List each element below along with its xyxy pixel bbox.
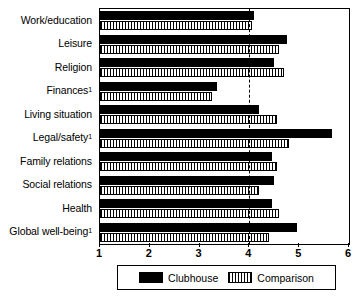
bar-clubhouse — [100, 129, 332, 138]
category-label: Global well-being1 — [0, 220, 96, 244]
category-label: Legal/safety1 — [0, 126, 96, 150]
bar-comparison — [100, 233, 269, 242]
category-label-text: Family relations — [20, 156, 92, 167]
bar-comparison — [100, 186, 259, 195]
x-tick-label: 3 — [196, 246, 202, 260]
x-tick-label: 5 — [295, 246, 301, 260]
category-label: Religion — [0, 55, 96, 79]
bar-group — [100, 80, 349, 104]
bar-group — [100, 9, 349, 33]
reference-line — [249, 9, 250, 244]
category-label: Work/education — [0, 8, 96, 32]
category-label-text: Global well-being — [9, 226, 88, 237]
bar-group — [100, 103, 349, 127]
x-tick-label: 6 — [345, 246, 351, 260]
horizontal-bar-chart: Work/educationLeisureReligionFinances1Li… — [0, 0, 360, 297]
category-label-text: Social relations — [22, 179, 92, 190]
x-axis-tick-labels: 123456 — [99, 246, 348, 260]
category-label: Social relations — [0, 173, 96, 197]
category-label: Living situation — [0, 102, 96, 126]
bar-group — [100, 174, 349, 198]
x-tick-label: 1 — [96, 246, 102, 260]
category-label-text: Leisure — [58, 38, 92, 49]
category-label-text: Health — [62, 203, 92, 214]
bar-group — [100, 33, 349, 57]
category-label-text: Work/education — [21, 15, 92, 26]
chart-legend: ClubhouseComparison — [117, 265, 336, 290]
bars-layer — [100, 9, 349, 244]
category-label: Family relations — [0, 149, 96, 173]
category-label: Finances1 — [0, 79, 96, 103]
legend-label: Comparison — [257, 272, 314, 284]
x-tick-label: 4 — [245, 246, 251, 260]
bar-comparison — [100, 21, 252, 30]
bar-group — [100, 56, 349, 80]
category-label-text: Religion — [55, 62, 92, 73]
category-label-text: Legal/safety — [33, 132, 88, 143]
legend-entry: Clubhouse — [139, 272, 218, 284]
bar-group — [100, 221, 349, 245]
bar-clubhouse — [100, 152, 272, 161]
bar-clubhouse — [100, 223, 297, 232]
plot-area — [99, 8, 350, 245]
bar-clubhouse — [100, 82, 217, 91]
bar-clubhouse — [100, 176, 274, 185]
bar-clubhouse — [100, 58, 274, 67]
bar-group — [100, 197, 349, 221]
bar-comparison — [100, 139, 289, 148]
legend-entry: Comparison — [228, 272, 314, 284]
solid-black-swatch — [139, 272, 163, 283]
category-label-text: Living situation — [24, 109, 92, 120]
bar-comparison — [100, 68, 284, 77]
bar-comparison — [100, 45, 279, 54]
x-tick-label: 2 — [146, 246, 152, 260]
legend-label: Clubhouse — [168, 272, 218, 284]
category-label: Leisure — [0, 32, 96, 56]
hatched-swatch — [228, 272, 252, 283]
bar-clubhouse — [100, 35, 287, 44]
bar-clubhouse — [100, 199, 272, 208]
bar-group — [100, 150, 349, 174]
bar-comparison — [100, 209, 279, 218]
bar-comparison — [100, 92, 212, 101]
bar-group — [100, 127, 349, 151]
category-label: Health — [0, 196, 96, 220]
bar-clubhouse — [100, 11, 254, 20]
category-label-text: Finances — [46, 85, 88, 96]
category-axis-labels: Work/educationLeisureReligionFinances1Li… — [0, 8, 96, 243]
bar-clubhouse — [100, 105, 259, 114]
